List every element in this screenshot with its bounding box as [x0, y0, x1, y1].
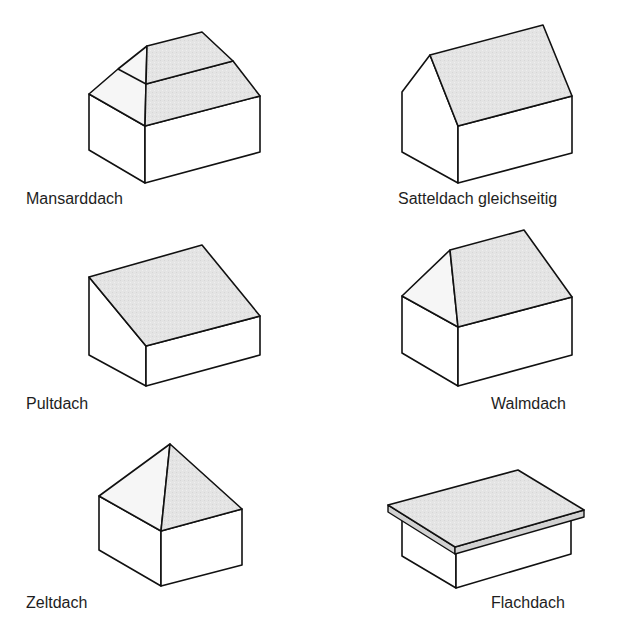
- label-zeltdach: Zeltdach: [26, 594, 87, 612]
- house-zeltdach: [99, 444, 242, 586]
- label-walmdach: Walmdach: [491, 395, 566, 413]
- house-satteldach: [402, 25, 572, 183]
- roof-types-drawing: [0, 0, 629, 636]
- label-mansarddach: Mansarddach: [26, 190, 123, 208]
- house-flachdach: [388, 470, 584, 588]
- label-pultdach: Pultdach: [26, 395, 88, 413]
- house-mansarddach: [89, 32, 260, 183]
- label-satteldach: Satteldach gleichseitig: [398, 190, 557, 208]
- house-walmdach: [402, 230, 572, 386]
- label-flachdach: Flachdach: [491, 594, 565, 612]
- roof-types-diagram: Mansarddach Satteldach gleichseitig Pult…: [0, 0, 629, 636]
- house-pultdach: [89, 245, 260, 386]
